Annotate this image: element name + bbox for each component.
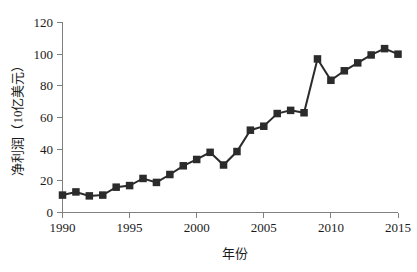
data-point [193,156,201,164]
x-tick-label-1995: 1995 [117,220,143,235]
data-point [233,148,241,156]
data-point [99,191,107,199]
y-tick-label-20: 20 [40,173,53,188]
data-point [273,110,281,118]
chart-figure: 净利润（10亿美元） 年份 0 20 40 60 80 100 120 1 [0,0,417,272]
data-point [139,175,147,183]
data-point [314,55,322,63]
y-tick-label-100: 100 [34,47,54,62]
x-axis-title: 年份 [222,246,248,261]
data-point [381,45,389,53]
data-point [126,182,134,190]
x-tick-label-1990: 1990 [50,220,76,235]
data-point [341,67,349,75]
data-point [86,192,94,200]
data-point [180,162,188,170]
x-tick-label-2015: 2015 [385,220,411,235]
data-point [287,107,295,115]
y-tick-label-40: 40 [40,142,53,157]
data-point [72,188,80,196]
data-point [247,126,255,134]
data-point [59,191,67,199]
y-tick-label-80: 80 [40,78,53,93]
data-point [394,50,402,58]
y-tick-label-120: 120 [34,15,54,30]
y-tick-label-0: 0 [47,205,54,220]
x-axis-ticks: 1990 1995 2000 2005 2010 2015 [50,213,412,236]
x-tick-label-2005: 2005 [251,220,277,235]
y-axis-title: 净利润（10亿美元） [10,59,25,176]
x-tick-label-2000: 2000 [184,220,210,235]
data-point [220,161,228,169]
y-axis-ticks: 0 20 40 60 80 100 120 [34,15,63,220]
data-point [112,183,120,191]
y-tick-label-60: 60 [40,110,53,125]
data-point [153,179,161,187]
x-tick-label-2010: 2010 [318,220,344,235]
data-point [166,171,174,179]
data-point [300,109,308,117]
data-point [206,149,214,157]
data-point [354,59,362,67]
data-point [260,122,268,129]
chart-plot-area: 净利润（10亿美元） 年份 0 20 40 60 80 100 120 1 [0,0,417,272]
data-point [367,51,375,59]
data-point [327,77,335,85]
